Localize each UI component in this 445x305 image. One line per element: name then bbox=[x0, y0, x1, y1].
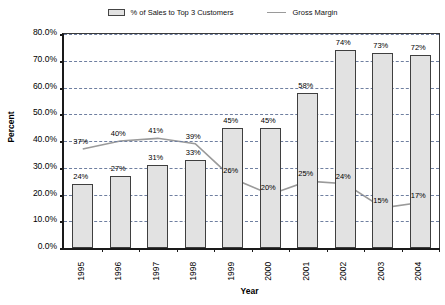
bar-value-label: 72% bbox=[398, 44, 438, 52]
y-axis-tick-label: 10.0% bbox=[9, 215, 57, 224]
x-axis-tick-mark bbox=[439, 248, 440, 252]
line-value-label: 24% bbox=[323, 173, 363, 181]
bar bbox=[72, 184, 93, 248]
bar bbox=[222, 128, 243, 248]
y-axis-tick-mark bbox=[60, 114, 64, 116]
y-axis-tick-label: 50.0% bbox=[9, 108, 57, 117]
bar-value-label: 31% bbox=[136, 154, 176, 162]
legend-bar-swatch-icon bbox=[108, 9, 125, 16]
bar-value-label: 33% bbox=[173, 149, 213, 157]
bar bbox=[372, 53, 393, 248]
line-value-label: 41% bbox=[136, 127, 176, 135]
line-value-label: 17% bbox=[398, 192, 438, 200]
y-axis-tick-mark bbox=[60, 34, 64, 36]
legend-item-bar-series: % of Sales to Top 3 Customers bbox=[108, 9, 234, 17]
x-axis-tick-label: 1999 bbox=[227, 249, 236, 293]
x-axis-tick-mark bbox=[177, 248, 178, 252]
x-axis-tick-label: 2003 bbox=[377, 249, 386, 293]
bar bbox=[335, 50, 356, 248]
line-value-label: 20% bbox=[248, 184, 288, 192]
x-axis-tick-label: 2001 bbox=[302, 249, 311, 293]
x-axis-tick-mark bbox=[214, 248, 215, 252]
y-axis-tick-label: 20.0% bbox=[9, 189, 57, 198]
x-axis-tick-mark bbox=[102, 248, 103, 252]
y-axis-tick-label: 30.0% bbox=[9, 162, 57, 171]
x-axis-tick-label: 1998 bbox=[189, 249, 198, 293]
plot-area bbox=[62, 33, 440, 250]
line-value-label: 25% bbox=[286, 170, 326, 178]
plot-inner bbox=[64, 34, 439, 248]
x-axis-tick-mark bbox=[289, 248, 290, 252]
bar bbox=[185, 160, 206, 248]
gridline bbox=[64, 34, 439, 35]
x-axis-tick-mark bbox=[252, 248, 253, 252]
y-axis-tick-mark bbox=[60, 195, 64, 197]
legend-item-line-series: Gross Margin bbox=[267, 9, 337, 17]
legend-line-label: Gross Margin bbox=[292, 9, 337, 17]
legend-bar-label: % of Sales to Top 3 Customers bbox=[131, 9, 234, 17]
y-axis-tick-mark bbox=[60, 61, 64, 63]
y-axis-tick-label: 0.0% bbox=[9, 242, 57, 251]
y-axis-tick-label: 70.0% bbox=[9, 55, 57, 64]
bar-value-label: 58% bbox=[286, 82, 326, 90]
line-value-label: 39% bbox=[173, 133, 213, 141]
x-axis-tick-mark bbox=[402, 248, 403, 252]
bar-value-label: 24% bbox=[61, 173, 101, 181]
x-axis-tick-mark bbox=[327, 248, 328, 252]
y-axis-tick-label: 40.0% bbox=[9, 135, 57, 144]
x-axis-tick-label: 2004 bbox=[414, 249, 423, 293]
y-axis-title: Percent bbox=[6, 97, 16, 157]
line-value-label: 40% bbox=[98, 130, 138, 138]
x-axis-tick-label: 2000 bbox=[264, 249, 273, 293]
y-axis-tick-mark bbox=[60, 221, 64, 223]
y-axis-tick-label: 80.0% bbox=[9, 28, 57, 37]
y-axis-tick-mark bbox=[60, 88, 64, 90]
y-axis-tick-label: 60.0% bbox=[9, 82, 57, 91]
y-axis-tick-mark bbox=[60, 168, 64, 170]
x-axis-tick-label: 2002 bbox=[339, 249, 348, 293]
chart-container: % of Sales to Top 3 Customers Gross Marg… bbox=[0, 0, 445, 305]
bar bbox=[147, 165, 168, 248]
x-axis-tick-label: 1997 bbox=[152, 249, 161, 293]
x-axis-tick-label: 1995 bbox=[77, 249, 86, 293]
y-axis-tick-mark bbox=[60, 248, 64, 250]
x-axis-tick-mark bbox=[364, 248, 365, 252]
bar-value-label: 73% bbox=[361, 42, 401, 50]
chart-legend: % of Sales to Top 3 Customers Gross Marg… bbox=[0, 9, 445, 17]
line-value-label: 37% bbox=[61, 138, 101, 146]
line-value-label: 15% bbox=[361, 197, 401, 205]
legend-line-swatch-icon bbox=[267, 12, 286, 13]
bar-value-label: 74% bbox=[323, 39, 363, 47]
line-value-label: 26% bbox=[211, 167, 251, 175]
bar bbox=[110, 176, 131, 248]
bar-value-label: 45% bbox=[211, 117, 251, 125]
bar-value-label: 27% bbox=[98, 165, 138, 173]
x-axis-tick-label: 1996 bbox=[114, 249, 123, 293]
bar-value-label: 45% bbox=[248, 117, 288, 125]
bar bbox=[410, 55, 431, 248]
x-axis-tick-mark bbox=[139, 248, 140, 252]
